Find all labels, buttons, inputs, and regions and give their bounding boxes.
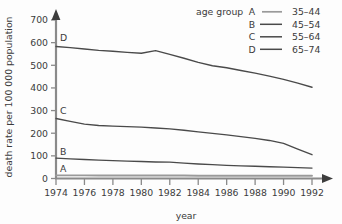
x-tick-label: 1976 <box>73 187 97 198</box>
x-tick-label: 1974 <box>44 187 68 198</box>
series-line-c <box>56 119 312 155</box>
series-line-b <box>56 158 312 168</box>
legend-key-c: C <box>249 31 256 42</box>
x-tick-label: 1984 <box>186 187 210 198</box>
chart-container: 0100200300400500600700 19741976197819801… <box>0 0 342 224</box>
line-chart: 0100200300400500600700 19741976197819801… <box>0 0 342 224</box>
x-tick-label: 1988 <box>243 187 267 198</box>
y-axis-title: death rate per 100 000 population <box>3 16 14 177</box>
x-axis-arrowhead <box>322 174 333 183</box>
y-tick-label: 700 <box>30 14 48 25</box>
y-tick-label: 0 <box>42 173 48 184</box>
x-tick-label: 1978 <box>101 187 125 198</box>
legend-key-b: B <box>249 19 255 30</box>
x-tick-label: 1992 <box>300 187 324 198</box>
y-tick-label: 300 <box>30 105 48 116</box>
legend-range-a: 35–44 <box>292 6 320 17</box>
curve-label-group: DCBA <box>60 32 67 173</box>
curve-label-b: B <box>60 146 66 157</box>
legend-key-a: A <box>249 6 256 17</box>
y-tick-label: 200 <box>30 128 48 139</box>
legend-range-d: 65–74 <box>292 44 320 55</box>
curve-label-c: C <box>60 105 67 116</box>
legend-key-d: D <box>248 44 255 55</box>
legend-title: age group <box>196 6 243 17</box>
legend-range-c: 55–64 <box>292 31 320 42</box>
series-group <box>56 46 312 175</box>
y-axis-arrowhead <box>52 9 61 20</box>
legend: age group A35–44B45–54C55–64D65–74 <box>196 6 320 55</box>
y-tick-label: 500 <box>30 60 48 71</box>
curve-label-d: D <box>60 32 67 43</box>
x-tick-label: 1982 <box>158 187 182 198</box>
y-tick-label-group: 0100200300400500600700 <box>30 14 48 184</box>
y-tick-label: 600 <box>30 37 48 48</box>
x-axis-title: year <box>176 210 197 221</box>
x-tick-label: 1980 <box>129 187 153 198</box>
series-line-d <box>56 46 312 87</box>
y-tick-label: 100 <box>30 150 48 161</box>
x-tick-label: 1986 <box>215 187 239 198</box>
curve-label-a: A <box>60 163 67 174</box>
legend-range-b: 45–54 <box>292 19 320 30</box>
x-tick-label: 1990 <box>272 187 296 198</box>
x-tick-label-group: 1974197619781980198219841986198819901992 <box>44 187 324 198</box>
y-tick-label: 400 <box>30 82 48 93</box>
